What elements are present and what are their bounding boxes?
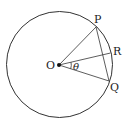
circle-diagram: O P R Q θ xyxy=(0,0,133,122)
label-q: Q xyxy=(110,81,119,94)
label-r: R xyxy=(113,45,122,58)
angle-arc xyxy=(71,62,72,69)
center-dot xyxy=(57,63,61,67)
label-theta: θ xyxy=(73,61,79,72)
label-o: O xyxy=(46,59,55,72)
label-p: P xyxy=(94,13,102,26)
segment-oq xyxy=(59,65,109,81)
segment-op xyxy=(59,27,96,65)
